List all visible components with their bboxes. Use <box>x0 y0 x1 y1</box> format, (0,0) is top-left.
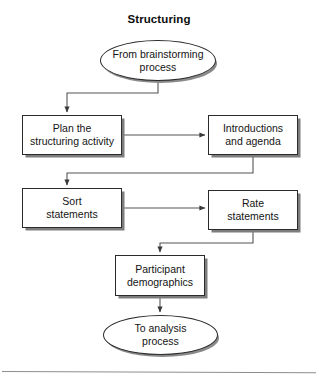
node-label: Introductions and agenda <box>219 122 287 148</box>
flowchart-canvas: Structuring From brainstorming process P… <box>0 0 318 385</box>
node-rate-statements[interactable]: Rate statements <box>208 190 298 230</box>
node-label: Plan the structuring activity <box>26 122 118 148</box>
node-label: Rate statements <box>223 197 282 223</box>
node-introductions-and-agenda[interactable]: Introductions and agenda <box>208 115 298 155</box>
node-label: From brainstorming process <box>108 48 207 74</box>
node-sort-statements[interactable]: Sort statements <box>22 188 122 228</box>
node-label: To analysis process <box>131 322 191 348</box>
node-from-brainstorming-process[interactable]: From brainstorming process <box>100 40 216 81</box>
footer-divider <box>2 371 316 373</box>
edge-from-brainstorming-to-plan-structuring <box>67 81 158 112</box>
node-label: Sort statements <box>42 195 101 221</box>
node-label: Participant demographics <box>123 263 197 289</box>
node-plan-the-structuring-activity[interactable]: Plan the structuring activity <box>22 115 122 155</box>
node-participant-demographics[interactable]: Participant demographics <box>115 255 205 296</box>
page-title: Structuring <box>0 13 318 25</box>
edge-introductions-to-sort-statements <box>67 157 253 185</box>
edge-rate-statements-to-participant-demographics <box>160 232 253 252</box>
node-to-analysis-process[interactable]: To analysis process <box>103 315 218 355</box>
